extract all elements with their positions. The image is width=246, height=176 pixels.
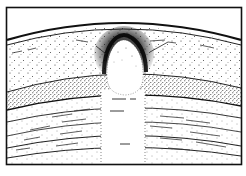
strata-group xyxy=(7,23,241,166)
geological-cross-section-diagram xyxy=(0,0,246,176)
intrusion-column xyxy=(101,90,145,166)
